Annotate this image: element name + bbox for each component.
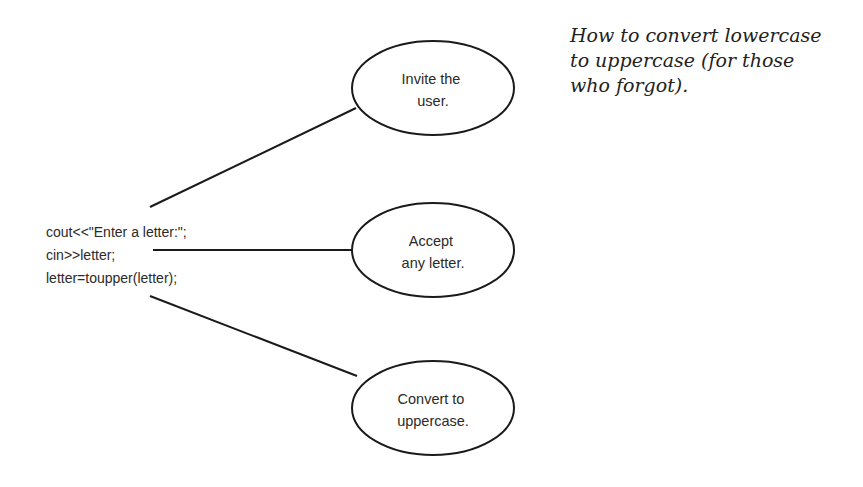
caption-line: How to convert lowercase xyxy=(570,23,850,48)
caption-line: to uppercase (for those xyxy=(570,48,850,73)
code-block: cout<<"Enter a letter:"; cin>>letter; le… xyxy=(46,221,187,290)
caption-line: who forgot). xyxy=(570,73,850,98)
code-line: cout<<"Enter a letter:"; xyxy=(46,221,187,244)
bubble-convert xyxy=(352,361,514,455)
caption: How to convert lowercase to uppercase (f… xyxy=(570,23,850,98)
bubble-accept xyxy=(352,203,514,297)
connector-invite xyxy=(150,108,356,207)
bubble-invite xyxy=(352,41,514,135)
connector-convert xyxy=(150,296,357,376)
code-line: cin>>letter; xyxy=(46,244,187,267)
code-line: letter=toupper(letter); xyxy=(46,267,187,290)
